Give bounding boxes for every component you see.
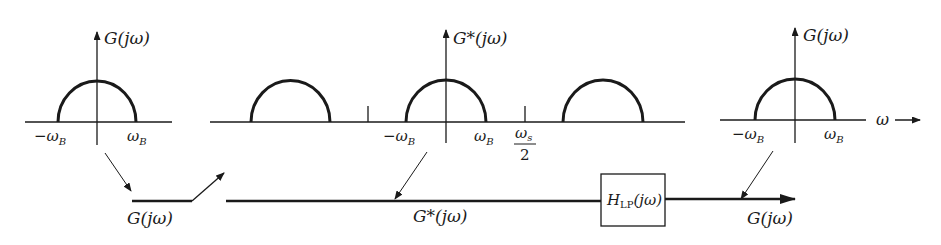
x-axis-label: ω [876, 110, 889, 129]
output-spectrum-plot: G(jω) −ωB ωB ω [720, 25, 920, 145]
pos-bandwidth-label: ωB [824, 125, 844, 145]
spectrum-replica-left [251, 81, 330, 122]
y-axis-label: G(jω) [104, 28, 150, 48]
y-axis-label: G*(jω) [453, 28, 507, 48]
pos-bandwidth-label: ωB [127, 127, 147, 147]
callout-arrow-output [741, 151, 773, 199]
half-fs-denominator: 2 [520, 146, 530, 164]
input-spectrum-plot: G(jω) −ωB ωB [25, 28, 172, 147]
half-fs-numerator: ωs [515, 124, 532, 143]
output-signal-label: G(jω) [747, 208, 793, 228]
sampled-spectrum-plot: G*(jω) −ωB ωB ωs 2 [210, 28, 685, 164]
signal-path: HLP(jω) G(jω) G*(jω) G(jω) [105, 151, 795, 228]
sampling-diagram: G(jω) −ωB ωB G*(jω) −ωB ωB ωs 2 G(jω) −ω… [0, 0, 941, 245]
neg-bandwidth-label: −ωB [34, 127, 66, 147]
y-axis-label: G(jω) [803, 25, 849, 45]
sampled-signal-label: G*(jω) [413, 206, 467, 226]
neg-bandwidth-label: −ωB [732, 125, 764, 145]
spectrum-replica-right [563, 80, 643, 122]
sampler-switch [192, 173, 224, 201]
neg-bandwidth-label: −ωB [383, 127, 415, 147]
callout-arrow-sampled [395, 152, 427, 199]
filter-label: HLP(jω) [606, 191, 662, 210]
pos-bandwidth-label: ωB [474, 127, 494, 147]
callout-arrow-input [105, 153, 131, 191]
input-signal-label: G(jω) [127, 208, 173, 228]
